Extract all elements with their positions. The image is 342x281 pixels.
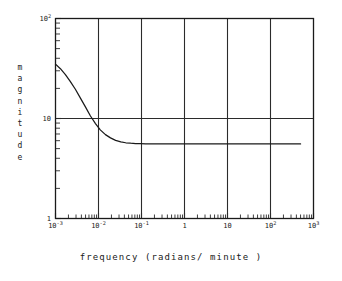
y-axis-title-letter: a: [12, 73, 28, 84]
y-axis-title-letter: n: [12, 96, 28, 107]
x-axis-title: frequency (radians/ minute ): [0, 252, 342, 262]
x-tick-label: 10: [223, 222, 231, 230]
y-axis-title: m a g n i t u d e: [12, 62, 28, 163]
plot-canvas: [0, 0, 342, 281]
x-tick-label: 10-1: [134, 222, 149, 230]
bode-magnitude-plot: m a g n i t u d e frequency (radians/ mi…: [0, 0, 342, 281]
x-tick-label: 102: [265, 222, 277, 230]
y-tick-label: 10: [24, 115, 51, 123]
data-curves: [56, 64, 301, 144]
y-axis-title-letter: u: [12, 129, 28, 140]
y-axis-title-letter: d: [12, 140, 28, 151]
gridlines: [56, 19, 314, 219]
x-tick-label: 10-3: [48, 222, 63, 230]
y-axis-title-letter: e: [12, 152, 28, 163]
y-axis-title-letter: m: [12, 62, 28, 73]
y-tick-label: 102: [24, 15, 51, 23]
x-tick-label: 103: [308, 222, 320, 230]
x-tick-label: 10-2: [91, 222, 106, 230]
y-axis-title-letter: g: [12, 84, 28, 95]
x-tick-label: 1: [182, 222, 186, 230]
y-tick-label: 1: [24, 215, 51, 223]
